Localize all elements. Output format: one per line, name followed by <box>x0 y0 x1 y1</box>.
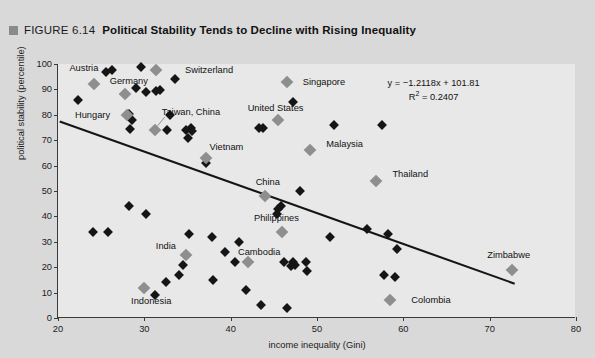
regression-annotation: y = −1.2118x + 101.81 R2 = 0.2407 <box>387 77 479 104</box>
point-label: Germany <box>110 76 148 86</box>
point-label: United States <box>248 103 304 113</box>
data-point <box>207 232 217 242</box>
gray-square-bullet-icon <box>9 26 18 35</box>
y-tick-label: 50 <box>42 186 52 196</box>
data-point <box>383 229 393 239</box>
x-tick-mark <box>403 317 404 321</box>
y-tick-label: 80 <box>42 110 52 120</box>
y-tick-label: 70 <box>42 135 52 145</box>
data-point-highlighted <box>280 75 293 88</box>
y-tick-mark <box>54 166 58 167</box>
data-point <box>103 227 113 237</box>
data-point-highlighted <box>276 225 289 238</box>
point-label: Taiwan, China <box>162 107 220 117</box>
data-point <box>379 270 389 280</box>
data-point <box>302 266 312 276</box>
data-point <box>174 270 184 280</box>
x-tick-label: 30 <box>139 324 149 334</box>
r-squared-symbol: R <box>409 92 416 102</box>
data-point-highlighted <box>369 174 382 187</box>
x-tick-label: 80 <box>571 324 581 334</box>
x-tick-mark <box>144 317 145 321</box>
x-tick-label: 20 <box>53 324 63 334</box>
plot-inner-area: political stability (percentile) income … <box>58 64 575 317</box>
point-label: Austria <box>69 63 98 73</box>
y-tick-label: 100 <box>36 59 52 69</box>
trendline <box>58 64 575 318</box>
data-point-highlighted <box>242 256 255 269</box>
r-squared-value: = 0.2407 <box>419 92 458 102</box>
point-label: Hungary <box>75 110 110 120</box>
regression-equation: y = −1.2118x + 101.81 <box>387 77 479 90</box>
data-point <box>141 87 151 97</box>
point-label: Zimbabwe <box>487 250 530 260</box>
x-axis-label: income inequality (Gini) <box>58 340 576 350</box>
data-point <box>170 74 180 84</box>
point-label: Switzerland <box>185 65 233 75</box>
data-point <box>221 247 231 257</box>
x-tick-label: 50 <box>312 324 322 334</box>
scatter-plot-panel: political stability (percentile) income … <box>57 64 575 318</box>
y-tick-label: 60 <box>42 161 52 171</box>
point-label: Colombia <box>411 295 450 305</box>
point-label: India <box>156 241 176 251</box>
x-tick-mark <box>576 317 577 321</box>
x-tick-label: 70 <box>484 324 494 334</box>
data-point-highlighted <box>88 78 101 91</box>
point-label: Indonesia <box>131 296 171 306</box>
data-point-highlighted <box>150 64 163 77</box>
r-squared: R2 = 0.2407 <box>387 89 479 104</box>
point-label: Singapore <box>303 77 345 87</box>
data-point-highlighted <box>259 190 272 203</box>
y-tick-label: 40 <box>42 211 52 221</box>
data-point <box>208 275 218 285</box>
data-point <box>178 260 188 270</box>
data-point <box>390 272 400 282</box>
data-point <box>234 237 244 247</box>
y-tick-mark <box>54 293 58 294</box>
data-point <box>73 95 83 105</box>
y-axis-label: political stability (percentile) <box>16 46 26 160</box>
y-tick-mark <box>54 115 58 116</box>
figure-number: FIGURE 6.14 <box>24 24 95 36</box>
data-point <box>136 62 146 72</box>
data-point-highlighted <box>138 281 151 294</box>
data-point-highlighted <box>272 114 285 127</box>
data-point <box>392 244 402 254</box>
data-point <box>377 120 387 130</box>
y-tick-label: 90 <box>42 84 52 94</box>
data-point <box>141 209 151 219</box>
x-tick-label: 40 <box>225 324 235 334</box>
x-tick-mark <box>231 317 232 321</box>
data-point-highlighted <box>304 144 317 157</box>
point-label: Cambodia <box>238 247 280 257</box>
x-tick-label: 60 <box>398 324 408 334</box>
y-tick-label: 30 <box>42 237 52 247</box>
point-label: Thailand <box>392 169 428 179</box>
y-tick-mark <box>54 267 58 268</box>
data-point <box>256 300 266 310</box>
data-point <box>325 232 335 242</box>
figure-title: Political Stability Tends to Decline wit… <box>102 24 416 36</box>
figure-container: FIGURE 6.14 Political Stability Tends to… <box>0 0 595 358</box>
x-tick-mark <box>490 317 491 321</box>
data-point-highlighted <box>506 263 519 276</box>
point-label: Vietnam <box>209 142 243 152</box>
leader-lines <box>58 64 575 318</box>
data-point <box>88 227 98 237</box>
data-point-highlighted <box>384 294 397 307</box>
data-point <box>230 257 240 267</box>
data-point <box>362 224 372 234</box>
y-tick-label: 10 <box>42 288 52 298</box>
data-point-highlighted <box>179 248 192 261</box>
y-tick-mark <box>54 64 58 65</box>
x-tick-mark <box>58 317 59 321</box>
y-tick-label: 20 <box>42 262 52 272</box>
data-point <box>241 285 251 295</box>
point-label: China <box>256 177 280 187</box>
data-point-highlighted <box>119 88 132 101</box>
y-tick-mark <box>54 191 58 192</box>
data-point <box>161 277 171 287</box>
y-tick-mark <box>54 89 58 90</box>
data-point-highlighted <box>148 124 161 137</box>
